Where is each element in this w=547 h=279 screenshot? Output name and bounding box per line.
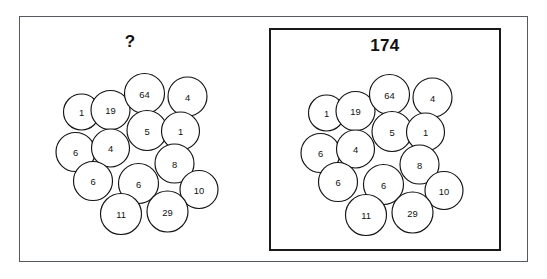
puzzle-figure: ? 174 1196445164866101129119644516486610… xyxy=(0,0,547,279)
total-value-label: 174 xyxy=(335,36,435,56)
answer-panel-border xyxy=(269,28,501,251)
question-mark-label: ? xyxy=(90,32,170,52)
